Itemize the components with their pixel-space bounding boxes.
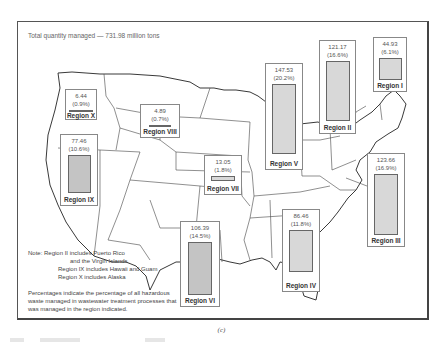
region-bar bbox=[272, 84, 296, 154]
region-percent: (20.2%) bbox=[273, 74, 294, 82]
region-iv-box: 86.46 (11.8%) Region IV bbox=[282, 209, 320, 292]
region-value: 13.05 bbox=[215, 159, 230, 166]
region-bar bbox=[188, 242, 212, 295]
region-notes: Note: Region II includes Puerto Rico and… bbox=[28, 249, 157, 281]
note-line: Note: Region II includes Puerto Rico bbox=[28, 249, 157, 257]
region-percent: (1.8%) bbox=[214, 166, 232, 174]
region-value: 147.53 bbox=[275, 67, 293, 74]
region-bar bbox=[149, 125, 171, 127]
percentage-note: Percentages indicate the percentage of a… bbox=[28, 289, 178, 313]
region-name: Region VIII bbox=[143, 128, 177, 135]
region-bar bbox=[326, 61, 350, 121]
region-viii-box: 4.89 (0.7%) Region VIII bbox=[140, 104, 180, 138]
cutoff-figure-caption bbox=[40, 338, 80, 342]
region-bar bbox=[379, 58, 402, 80]
region-value: 77.46 bbox=[71, 138, 86, 145]
region-name: Region V bbox=[270, 160, 298, 167]
total-quantity-label: Total quantity managed — 731.98 million … bbox=[28, 32, 160, 39]
region-value: 44.93 bbox=[382, 41, 397, 48]
region-i-box: 44.93 (6.1%) Region I bbox=[373, 37, 407, 92]
region-ii-box: 121.17 (16.6%) Region II bbox=[319, 40, 356, 134]
region-iii-box: 123.66 (16.9%) Region III bbox=[367, 153, 405, 247]
region-name: Region II bbox=[324, 124, 351, 131]
region-ix-box: 77.46 (10.6%) Region IX bbox=[60, 134, 98, 206]
region-percent: (16.6%) bbox=[327, 51, 348, 59]
region-value: 86.46 bbox=[293, 213, 308, 220]
region-percent: (14.5%) bbox=[189, 232, 210, 240]
region-percent: (11.8%) bbox=[291, 220, 312, 228]
region-name: Region III bbox=[371, 237, 400, 244]
region-name: Region VII bbox=[207, 185, 239, 192]
region-value: 121.17 bbox=[328, 44, 346, 51]
panel-caption: (c) bbox=[0, 326, 443, 334]
region-bar bbox=[68, 155, 91, 193]
region-value: 106.39 bbox=[191, 225, 209, 232]
region-vii-box: 13.05 (1.8%) Region VII bbox=[204, 155, 242, 195]
region-percent: (6.1%) bbox=[381, 48, 399, 56]
note-line: and the Virgin Islands bbox=[28, 257, 157, 265]
region-x-box: 6.44 (0.9%) Region X bbox=[65, 89, 97, 120]
region-name: Region IX bbox=[64, 196, 94, 203]
region-value: 6.44 bbox=[75, 93, 87, 100]
region-value: 123.66 bbox=[377, 157, 395, 164]
note-line: Region IX includes Hawaii and Guam bbox=[28, 265, 157, 273]
region-name: Region VI bbox=[185, 297, 215, 304]
region-name: Region I bbox=[377, 82, 403, 89]
region-bar bbox=[374, 174, 398, 235]
region-name: Region IV bbox=[286, 282, 316, 289]
region-percent: (0.9%) bbox=[72, 100, 90, 108]
region-bar bbox=[289, 230, 313, 272]
note-line: Region X includes Alaska bbox=[28, 273, 157, 281]
region-vi-box: 106.39 (14.5%) Region VI bbox=[180, 221, 220, 307]
cutoff-figure-caption bbox=[10, 338, 24, 342]
region-value: 4.89 bbox=[154, 108, 166, 115]
region-v-box: 147.53 (20.2%) Region V bbox=[265, 63, 303, 170]
region-percent: (0.7%) bbox=[151, 115, 169, 123]
region-name: Region X bbox=[67, 112, 95, 119]
region-percent: (10.6%) bbox=[68, 145, 89, 153]
cutoff-figure-caption bbox=[145, 338, 165, 342]
region-bar bbox=[211, 176, 235, 181]
region-percent: (16.9%) bbox=[375, 164, 396, 172]
